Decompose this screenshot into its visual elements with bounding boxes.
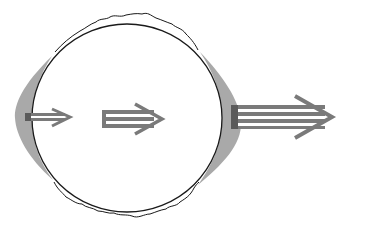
medium-arrow bbox=[102, 104, 162, 134]
large-arrow bbox=[231, 96, 332, 138]
wavy-top-edge bbox=[55, 13, 198, 52]
diagram-canvas bbox=[0, 0, 383, 229]
